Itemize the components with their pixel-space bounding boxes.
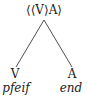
branch-right — [44, 20, 72, 67]
root-node-label: ⟨⟨V⟩A⟩ — [26, 4, 62, 16]
morphological-tree: ⟨⟨V⟩A⟩ V pfeif A end — [0, 0, 88, 104]
leaf-category-a: A — [68, 68, 77, 80]
leaf-word-end: end — [60, 82, 83, 94]
leaf-category-v: V — [11, 68, 20, 80]
branch-left — [16, 20, 44, 67]
leaf-word-pfeif: pfeif — [2, 82, 30, 94]
